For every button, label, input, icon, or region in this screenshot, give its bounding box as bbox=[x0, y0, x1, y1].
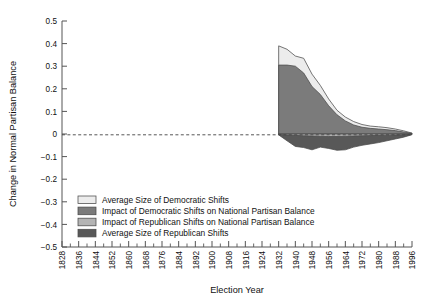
x-tick-label: 1844 bbox=[92, 251, 101, 270]
x-tick-label: 1908 bbox=[225, 251, 234, 270]
y-tick-label: 0 bbox=[52, 130, 57, 139]
legend-swatch bbox=[78, 196, 96, 204]
x-tick-label: 1964 bbox=[342, 251, 351, 270]
x-tick-label: 1924 bbox=[258, 251, 267, 270]
legend-label: Average Size of Democratic Shifts bbox=[102, 195, 229, 205]
y-tick-label: −0.1 bbox=[41, 153, 58, 162]
x-tick-label: 1868 bbox=[142, 251, 151, 270]
x-tick-label: 1828 bbox=[58, 251, 67, 270]
x-tick-label: 1892 bbox=[192, 251, 201, 270]
y-tick-label: 0.4 bbox=[46, 40, 58, 49]
x-tick-label: 1972 bbox=[358, 251, 367, 270]
x-tick-label: 1956 bbox=[325, 251, 334, 270]
legend-swatch bbox=[78, 218, 96, 226]
y-tick-label: −0.4 bbox=[41, 221, 58, 230]
x-tick-label: 1988 bbox=[392, 251, 401, 270]
y-tick-label: −0.5 bbox=[41, 243, 58, 252]
legend-swatch bbox=[78, 207, 96, 215]
y-tick-label: −0.3 bbox=[41, 198, 58, 207]
x-tick-label: 1940 bbox=[292, 251, 301, 270]
x-tick-label: 1996 bbox=[408, 251, 417, 270]
x-tick-label: 1884 bbox=[175, 251, 184, 270]
y-tick-label: 0.2 bbox=[46, 85, 58, 94]
x-tick-label: 1900 bbox=[208, 251, 217, 270]
x-tick-label: 1916 bbox=[242, 251, 251, 270]
y-tick-label: 0.5 bbox=[46, 17, 58, 26]
legend-label: Impact of Democratic Shifts on National … bbox=[102, 206, 315, 216]
legend-label: Average Size of Republican Shifts bbox=[102, 228, 228, 238]
x-tick-label: 1876 bbox=[158, 251, 167, 270]
y-tick-label: 0.3 bbox=[46, 62, 58, 71]
x-tick-label: 1852 bbox=[108, 251, 117, 270]
y-tick-label: 0.1 bbox=[46, 108, 58, 117]
x-tick-label: 1860 bbox=[125, 251, 134, 270]
x-tick-label: 1932 bbox=[275, 251, 284, 270]
x-axis-title: Election Year bbox=[210, 285, 264, 295]
legend-label: Impact of Republican Shifts on National … bbox=[102, 217, 315, 227]
partisan-balance-area-chart: 0.50.40.30.20.10−0.1−0.2−0.3−0.4−0.5 182… bbox=[0, 0, 433, 302]
chart-figure: 0.50.40.30.20.10−0.1−0.2−0.3−0.4−0.5 182… bbox=[0, 0, 433, 302]
legend-swatch bbox=[78, 229, 96, 237]
x-tick-label: 1980 bbox=[375, 251, 384, 270]
y-tick-label: −0.2 bbox=[41, 175, 58, 184]
y-axis-title: Change in Normal Partisan Balance bbox=[8, 61, 18, 207]
x-tick-label: 1836 bbox=[75, 251, 84, 270]
x-tick-label: 1948 bbox=[308, 251, 317, 270]
